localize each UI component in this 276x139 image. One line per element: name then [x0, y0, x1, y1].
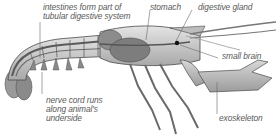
brain-organ	[175, 41, 179, 45]
label-intestines: intestines form part of tubular digestiv…	[43, 3, 130, 21]
label-nerve-cord-line3: underside	[46, 114, 103, 123]
label-intestines-line2: tubular digestive system	[43, 12, 130, 21]
label-stomach: stomach	[150, 3, 181, 12]
label-small-brain: small brain	[222, 52, 261, 61]
label-digestive-gland: digestive gland	[198, 3, 252, 12]
digestive-gland-organ	[110, 38, 150, 62]
label-nerve-cord: nerve cord runs along animal's underside	[46, 96, 103, 123]
claw	[180, 60, 272, 92]
walking-legs	[130, 64, 198, 134]
label-exoskeleton: exoskeleton	[219, 114, 263, 123]
crayfish-anatomy-diagram: intestines form part of tubular digestiv…	[0, 0, 276, 139]
